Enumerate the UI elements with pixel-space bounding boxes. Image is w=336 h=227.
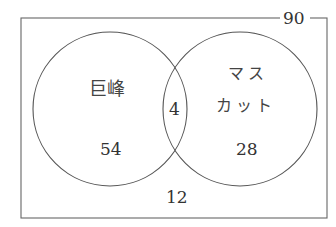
outside-count: 12	[166, 189, 188, 206]
set-a-circle	[33, 32, 187, 186]
set-b-label-line1: マス	[228, 66, 268, 82]
set-a-label: 巨峰	[89, 80, 125, 98]
set-b-only-count: 28	[236, 141, 258, 158]
set-b-label-line2: カット	[216, 98, 276, 114]
universe-total-label: 90	[283, 10, 305, 27]
intersection-count: 4	[169, 101, 180, 118]
set-a-only-count: 54	[100, 141, 122, 158]
